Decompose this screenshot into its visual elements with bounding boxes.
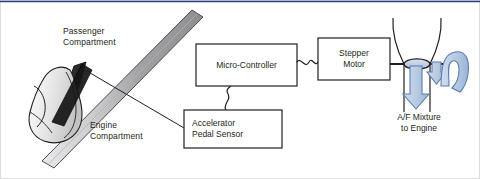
- diagram-canvas: Passenger Compartment Engine Compartment…: [0, 0, 480, 179]
- micro-controller-label: Micro-Controller: [196, 60, 297, 71]
- stepper-motor-label: Stepper Motor: [318, 48, 390, 69]
- passenger-compartment-label: Passenger Compartment: [63, 26, 116, 47]
- engine-compartment-label: Engine Compartment: [90, 120, 143, 141]
- accelerator-pedal-sensor-label: Accelerator Pedal Sensor: [192, 118, 286, 139]
- af-mixture-to-engine-label: A/F Mixture to Engine: [378, 112, 460, 133]
